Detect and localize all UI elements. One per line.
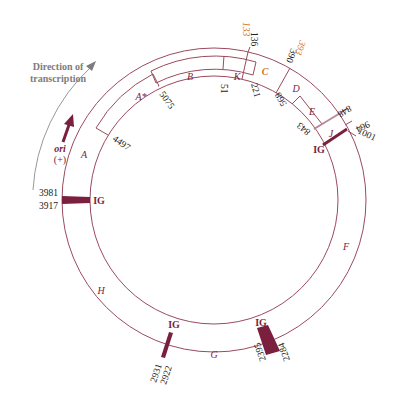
direction-arc (33, 67, 91, 190)
pos-3981: 3981 (39, 188, 58, 198)
ori-arrow-icon (64, 114, 74, 127)
ig-label-2922: IG (168, 319, 180, 330)
gene-label-g: G (210, 349, 217, 360)
inner-ring (90, 76, 338, 324)
pos-390: 390 (284, 47, 298, 64)
a-star-box-outer (96, 74, 159, 128)
a-star-box-start-4497 (96, 128, 108, 135)
ori-label: ori (54, 143, 66, 154)
ig-3917-3981 (62, 196, 90, 204)
boundary-390 (276, 68, 290, 93)
boundary-848 (314, 112, 342, 129)
ig-label-3917: IG (93, 195, 105, 206)
pos-848: 848 (336, 103, 354, 119)
ig-label-2284: IG (255, 317, 267, 328)
gene-label-c: C (262, 66, 269, 77)
direction-arrowhead-icon (86, 61, 96, 71)
ig-1001-bar (323, 129, 347, 145)
b-k-boundary-51 (223, 56, 224, 69)
gene-label-f: F (342, 241, 350, 252)
gene-label-b: B (187, 71, 193, 82)
pos-2284: 2284 (276, 341, 292, 363)
ig-label-1001: IG (313, 144, 325, 155)
ig-2922-2931 (161, 332, 173, 358)
genome-map: Direction of transcription ori (+) A A* … (0, 0, 396, 401)
outer-ring (62, 48, 366, 352)
gene-label-j: J (329, 128, 334, 139)
pos-3917: 3917 (39, 201, 58, 211)
gene-label-a-star: A* (134, 91, 146, 102)
direction-label-line1: Direction of (33, 61, 84, 72)
pos-843: 843 (295, 120, 313, 137)
pos-51: 51 (219, 84, 229, 94)
tick-136 (248, 47, 250, 52)
gene-label-e: E (308, 106, 315, 117)
pos-136: 136 (249, 32, 259, 47)
e-box (292, 96, 322, 129)
gene-label-h: H (96, 285, 105, 296)
pos-1001: 1001 (356, 126, 378, 143)
ori-sign: (+) (54, 154, 66, 166)
gene-label-k: K (233, 71, 242, 82)
tick-964 (345, 121, 352, 125)
gene-label-a: A (80, 149, 88, 160)
direction-label-line2: transcription (30, 73, 87, 84)
boundary-136 (242, 52, 248, 79)
pos-5075: 5075 (157, 89, 176, 111)
gene-label-d: D (291, 83, 300, 94)
pos-568: 568 (273, 90, 289, 108)
pos-4497: 4497 (111, 133, 133, 152)
pos-221: 221 (249, 82, 262, 99)
